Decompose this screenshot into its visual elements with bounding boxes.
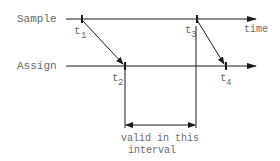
interval-label-line1: valid in this: [121, 133, 199, 144]
t2-label: t 2: [112, 72, 123, 88]
interval-label-line2: interval: [128, 145, 176, 156]
t1-to-t2-arrow: [82, 20, 123, 64]
svg-text:1: 1: [81, 31, 86, 41]
t1-label: t 1: [74, 25, 86, 41]
t3-label: t 3: [185, 24, 196, 40]
time-axis-label: time: [244, 24, 268, 35]
t3-to-t4-arrow: [197, 20, 224, 64]
timing-diagram: Sample Assign time t 1 t 2 t 3 t 4 valid…: [0, 0, 280, 161]
svg-text:t: t: [74, 25, 81, 37]
t4-label: t 4: [220, 72, 231, 88]
sample-row-label: Sample: [17, 13, 57, 25]
svg-text:4: 4: [226, 78, 231, 88]
assign-row-label: Assign: [17, 60, 57, 72]
svg-text:2: 2: [118, 78, 123, 88]
